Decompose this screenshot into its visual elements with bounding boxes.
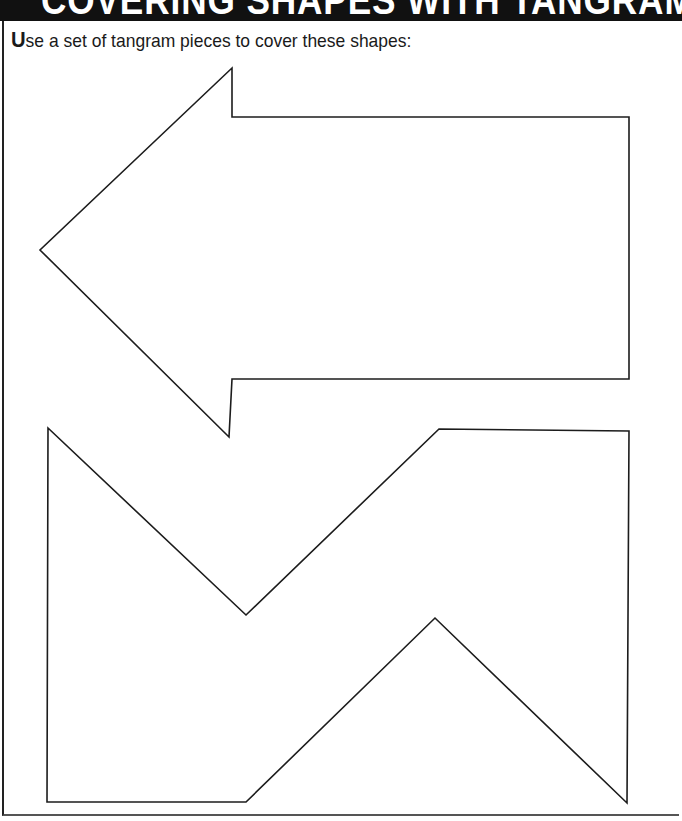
shapes-canvas xyxy=(0,0,682,821)
arrow-shape xyxy=(40,68,629,437)
zigzag-shape xyxy=(47,428,629,803)
